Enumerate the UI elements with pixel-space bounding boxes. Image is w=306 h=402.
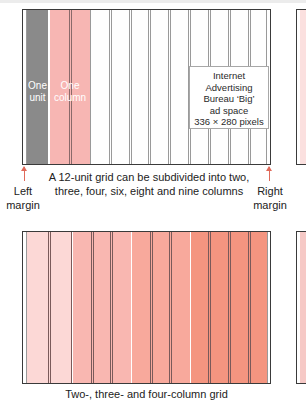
grid-line bbox=[248, 232, 249, 383]
grid-line bbox=[110, 232, 111, 383]
label-line: margin bbox=[248, 198, 292, 212]
grid-line bbox=[148, 10, 149, 164]
ad-line: Bureau ‘Big’ bbox=[190, 93, 268, 105]
top-edge-strip bbox=[0, 0, 306, 3]
left-margin-label: Left margin bbox=[2, 184, 44, 212]
ad-line: ad space bbox=[190, 105, 268, 117]
twelve-unit-grid: One unit One column Internet Advertising… bbox=[22, 9, 271, 165]
grid-line bbox=[208, 232, 209, 383]
grid-line bbox=[250, 232, 251, 383]
grid-line bbox=[71, 232, 72, 383]
caption-line: A 12-unit grid can be subdivided into tw… bbox=[44, 170, 254, 184]
grid-line bbox=[48, 232, 49, 383]
one-column-label: One column bbox=[50, 80, 90, 104]
label-line: unit bbox=[27, 92, 48, 104]
grid-line bbox=[171, 232, 172, 383]
grid-line bbox=[131, 10, 132, 164]
ad-line: Advertising bbox=[190, 82, 268, 94]
multi-column-grid bbox=[22, 231, 271, 384]
section-three-column-a bbox=[73, 232, 131, 383]
right-margin-arrow-icon bbox=[269, 167, 270, 181]
one-unit-label: One unit bbox=[27, 80, 48, 104]
ad-line: Internet bbox=[190, 70, 268, 82]
grid-line bbox=[210, 232, 211, 383]
grid-line bbox=[168, 10, 169, 164]
right-margin-label: Right margin bbox=[248, 184, 292, 212]
grid-line bbox=[190, 232, 191, 383]
grid-line bbox=[90, 10, 91, 164]
grid-line bbox=[230, 232, 231, 383]
grid-line bbox=[131, 232, 132, 383]
grid-line bbox=[170, 10, 171, 164]
label-line: Left bbox=[2, 184, 44, 198]
grid-line bbox=[228, 232, 229, 383]
grid-line bbox=[150, 10, 151, 164]
grid-line bbox=[26, 232, 27, 383]
label-line: column bbox=[50, 92, 90, 104]
top-caption: A 12-unit grid can be subdivided into tw… bbox=[44, 170, 254, 198]
caption-line: three, four, six, eight and nine columns bbox=[44, 184, 254, 198]
grid-line bbox=[112, 232, 113, 383]
section-two-column bbox=[27, 232, 71, 383]
grid-line bbox=[150, 232, 151, 383]
label-line: One bbox=[27, 80, 48, 92]
grid-line bbox=[152, 232, 153, 383]
ad-space-box: Internet Advertising Bureau ‘Big’ ad spa… bbox=[189, 66, 269, 129]
next-figure-bottom-edge bbox=[296, 231, 306, 384]
next-figure-top-edge bbox=[296, 9, 306, 165]
grid-line bbox=[267, 232, 268, 383]
label-line: One bbox=[50, 80, 90, 92]
ad-line: 336 × 280 pixels bbox=[190, 116, 268, 128]
grid-line bbox=[169, 232, 170, 383]
grid-line bbox=[109, 10, 110, 164]
bottom-caption: Two-, three- and four-column grid bbox=[22, 387, 271, 401]
label-line: Right bbox=[248, 184, 292, 198]
left-margin-arrow-icon bbox=[24, 167, 25, 181]
grid-line bbox=[129, 10, 130, 164]
section-four-column bbox=[191, 232, 267, 383]
grid-line bbox=[111, 10, 112, 164]
grid-line bbox=[50, 232, 51, 383]
grid-line bbox=[91, 232, 92, 383]
section-three-column-b bbox=[132, 232, 190, 383]
label-line: margin bbox=[2, 198, 44, 212]
grid-line bbox=[93, 232, 94, 383]
